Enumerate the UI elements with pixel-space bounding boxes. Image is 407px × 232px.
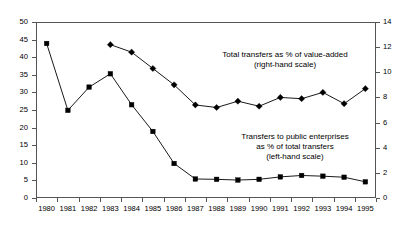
- y-axis-right-label: 0: [383, 194, 405, 202]
- x-axis-tick: [312, 198, 313, 202]
- y-axis-left-label: 25: [6, 106, 28, 114]
- x-axis-tick: [206, 198, 207, 202]
- x-axis-tick: [57, 198, 58, 202]
- y-axis-left-label: 10: [6, 159, 28, 167]
- plot-area: [36, 22, 376, 198]
- x-axis-tick: [227, 198, 228, 202]
- y-axis-left-tick: [32, 128, 36, 129]
- x-axis-tick: [79, 198, 80, 202]
- y-axis-left-tick: [32, 22, 36, 23]
- y-axis-left-tick: [32, 75, 36, 76]
- upper-series-annotation: Total transfers as % of value-added (rig…: [200, 50, 370, 70]
- y-axis-left-label: 50: [6, 18, 28, 26]
- y-axis-left-label: 20: [6, 124, 28, 132]
- y-axis-right-label: 4: [383, 144, 405, 152]
- y-axis-right-label: 6: [383, 119, 405, 127]
- upper-annotation-line-2: (right-hand scale): [200, 60, 370, 70]
- x-axis-tick: [185, 198, 186, 202]
- lower-annotation-line-2: as % of total transfers: [210, 142, 380, 152]
- x-axis-tick: [334, 198, 335, 202]
- y-axis-right-tick: [376, 72, 380, 73]
- x-axis-tick: [142, 198, 143, 202]
- x-axis-tick: [376, 198, 377, 202]
- x-axis-tick: [291, 198, 292, 202]
- y-axis-right-tick: [376, 97, 380, 98]
- upper-annotation-line-1: Total transfers as % of value-added: [200, 50, 370, 60]
- y-axis-right-tick: [376, 173, 380, 174]
- x-axis-tick: [249, 198, 250, 202]
- y-axis-left-tick: [32, 163, 36, 164]
- y-axis-right-tick: [376, 47, 380, 48]
- y-axis-left-tick: [32, 40, 36, 41]
- y-axis-left-label: 45: [6, 36, 28, 44]
- x-axis-tick: [36, 198, 37, 202]
- y-axis-left-label: 40: [6, 53, 28, 61]
- y-axis-left-label: 5: [6, 176, 28, 184]
- y-axis-right-label: 12: [383, 43, 405, 51]
- y-axis-left-tick: [32, 92, 36, 93]
- y-axis-right-label: 8: [383, 93, 405, 101]
- y-axis-right-label: 2: [383, 169, 405, 177]
- lower-series-annotation: Transfers to public enterprises as % of …: [210, 132, 380, 163]
- x-axis-tick: [121, 198, 122, 202]
- x-axis-tick: [164, 198, 165, 202]
- y-axis-left-tick: [32, 180, 36, 181]
- y-axis-right-label: 14: [383, 18, 405, 26]
- y-axis-right-tick: [376, 22, 380, 23]
- y-axis-left-label: 15: [6, 141, 28, 149]
- y-axis-left-tick: [32, 57, 36, 58]
- x-axis-label: 1995: [353, 205, 377, 213]
- lower-annotation-line-3: (left-hand scale): [210, 152, 380, 162]
- x-axis-tick: [270, 198, 271, 202]
- y-axis-left-label: 30: [6, 88, 28, 96]
- y-axis-left-tick: [32, 145, 36, 146]
- x-axis-tick: [355, 198, 356, 202]
- y-axis-left-label: 0: [6, 194, 28, 202]
- y-axis-left-label: 35: [6, 71, 28, 79]
- y-axis-right-tick: [376, 123, 380, 124]
- y-axis-left-tick: [32, 110, 36, 111]
- chart-container: 0510152025303540455002468101214198019811…: [0, 0, 407, 232]
- x-axis-tick: [100, 198, 101, 202]
- lower-annotation-line-1: Transfers to public enterprises: [210, 132, 380, 142]
- y-axis-right-label: 10: [383, 68, 405, 76]
